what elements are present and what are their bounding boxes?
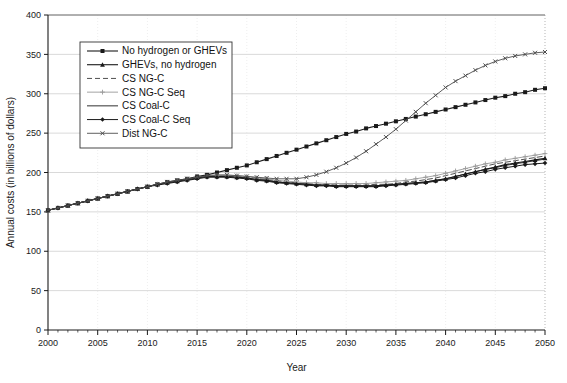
marker-square bbox=[344, 132, 348, 136]
y-tick-label: 200 bbox=[26, 168, 41, 178]
marker-diamond bbox=[413, 181, 418, 186]
legend-item-label: CS NG-C bbox=[122, 73, 164, 84]
marker-square bbox=[384, 122, 388, 126]
legend-item-label: CS NG-C Seq bbox=[122, 87, 185, 98]
marker-diamond bbox=[543, 161, 548, 166]
marker-cross bbox=[473, 68, 477, 72]
y-tick-label: 250 bbox=[26, 128, 41, 138]
legend-item-label: CS Coal-C bbox=[122, 100, 170, 111]
marker-cross bbox=[424, 101, 428, 105]
marker-cross bbox=[454, 79, 458, 83]
series-cs-ng-c-seq bbox=[46, 151, 548, 213]
marker-diamond bbox=[274, 180, 279, 185]
marker-diamond bbox=[374, 184, 379, 189]
marker-square bbox=[543, 86, 547, 90]
legend-item-label: CS Coal-C Seq bbox=[122, 114, 190, 125]
marker-cross bbox=[364, 149, 368, 153]
line-chart: 0501001502002503003504002000200520102015… bbox=[0, 0, 567, 383]
marker-plus bbox=[533, 153, 538, 158]
y-tick-label: 50 bbox=[31, 286, 41, 296]
marker-square bbox=[503, 94, 507, 98]
marker-square bbox=[434, 110, 438, 114]
legend-item-label: GHEVs, no hydrogen bbox=[122, 59, 217, 70]
x-tick-label: 2030 bbox=[336, 338, 356, 348]
marker-square bbox=[364, 126, 368, 130]
marker-diamond bbox=[404, 182, 409, 187]
x-tick-label: 2005 bbox=[88, 338, 108, 348]
marker-square bbox=[424, 112, 428, 116]
y-tick-label: 100 bbox=[26, 246, 41, 256]
marker-diamond bbox=[433, 179, 438, 184]
x-tick-label: 2050 bbox=[535, 338, 555, 348]
marker-square bbox=[414, 115, 418, 119]
marker-square bbox=[255, 160, 259, 164]
marker-square bbox=[314, 141, 318, 145]
marker-plus bbox=[413, 176, 418, 181]
legend-item-label: Dist NG-C bbox=[122, 128, 168, 139]
marker-cross bbox=[384, 135, 388, 139]
marker-cross bbox=[334, 166, 338, 170]
x-tick-label: 2025 bbox=[286, 338, 306, 348]
y-tick-label: 350 bbox=[26, 50, 41, 60]
x-tick-label: 2045 bbox=[485, 338, 505, 348]
legend: No hydrogen or GHEVsGHEVs, no hydrogenCS… bbox=[80, 42, 232, 148]
marker-square bbox=[394, 119, 398, 123]
marker-square bbox=[444, 108, 448, 112]
marker-cross bbox=[344, 161, 348, 165]
marker-square bbox=[523, 90, 527, 94]
marker-plus bbox=[543, 151, 548, 156]
marker-square bbox=[454, 105, 458, 109]
marker-square bbox=[285, 151, 289, 155]
marker-cross bbox=[444, 85, 448, 89]
marker-square bbox=[533, 88, 537, 92]
y-tick-label: 300 bbox=[26, 89, 41, 99]
x-tick-label: 2010 bbox=[137, 338, 157, 348]
marker-square bbox=[334, 135, 338, 139]
marker-cross bbox=[394, 127, 398, 131]
marker-plus bbox=[523, 154, 528, 159]
marker-cross bbox=[354, 156, 358, 160]
marker-cross bbox=[414, 110, 418, 114]
marker-square bbox=[493, 96, 497, 100]
chart-canvas: 0501001502002503003504002000200520102015… bbox=[0, 0, 567, 383]
marker-cross bbox=[374, 142, 378, 146]
legend-item-label: No hydrogen or GHEVs bbox=[122, 45, 227, 56]
marker-square bbox=[275, 154, 279, 158]
marker-square bbox=[473, 100, 477, 104]
y-tick-label: 400 bbox=[26, 10, 41, 20]
marker-square bbox=[483, 98, 487, 102]
x-axis-title: Year bbox=[286, 362, 307, 373]
y-tick-label: 0 bbox=[36, 325, 41, 335]
marker-diamond bbox=[423, 180, 428, 185]
marker-square bbox=[324, 138, 328, 142]
marker-square bbox=[463, 103, 467, 107]
y-tick-label: 150 bbox=[26, 207, 41, 217]
y-axis-title: Annual costs (in billions of dollars) bbox=[5, 97, 16, 248]
marker-square bbox=[225, 168, 229, 172]
x-tick-label: 2000 bbox=[38, 338, 58, 348]
x-tick-label: 2040 bbox=[436, 338, 456, 348]
marker-square bbox=[304, 145, 308, 149]
marker-square bbox=[101, 49, 105, 53]
marker-square bbox=[513, 92, 517, 96]
marker-square bbox=[245, 163, 249, 167]
marker-diamond bbox=[533, 162, 538, 167]
marker-square bbox=[295, 148, 299, 152]
marker-square bbox=[354, 130, 358, 134]
x-tick-label: 2020 bbox=[237, 338, 257, 348]
x-tick-label: 2015 bbox=[187, 338, 207, 348]
x-tick-label: 2035 bbox=[386, 338, 406, 348]
marker-cross bbox=[463, 74, 467, 78]
marker-square bbox=[265, 157, 269, 161]
marker-square bbox=[374, 124, 378, 128]
marker-square bbox=[235, 166, 239, 170]
marker-cross bbox=[483, 63, 487, 67]
